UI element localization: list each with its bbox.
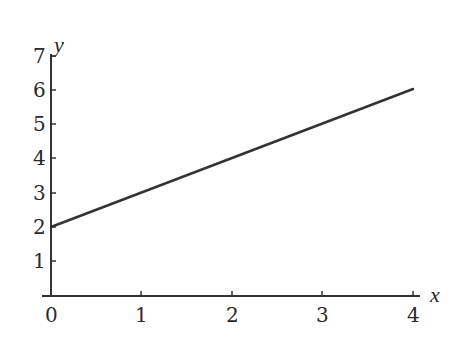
data-line (51, 89, 413, 227)
y-tick-label: 4 (33, 146, 46, 170)
y-tick-label: 1 (33, 249, 46, 273)
x-axis-label: x (429, 282, 440, 307)
y-axis-label: y (52, 32, 64, 57)
y-tick-label: 3 (33, 181, 46, 205)
x-tick-label: 1 (135, 303, 148, 327)
x-tick-label: 4 (407, 303, 420, 327)
line-chart: 7 6 5 4 3 2 1 0 1 2 3 4 y x (0, 0, 465, 348)
x-tick-label: 3 (316, 303, 329, 327)
y-tick-label: 7 (33, 44, 46, 68)
y-tick-label: 6 (33, 78, 46, 102)
x-tick-label: 2 (226, 303, 239, 327)
y-tick-label: 5 (33, 112, 46, 136)
y-tick-label: 2 (33, 215, 46, 239)
x-tick-label: 0 (45, 303, 58, 327)
